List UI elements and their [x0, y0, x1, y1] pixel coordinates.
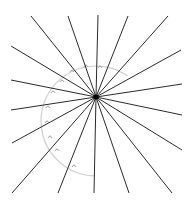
radiating-lines — [11, 15, 182, 193]
angle-marker — [48, 136, 52, 138]
ray-line — [96, 50, 181, 97]
ray-line — [96, 97, 172, 193]
center-point — [94, 95, 99, 100]
angle-marker — [51, 91, 55, 93]
ray-line — [96, 97, 129, 193]
diagram-svg — [0, 0, 191, 202]
ray-line — [96, 97, 182, 115]
angle-markers — [45, 65, 102, 167]
ray-line — [11, 46, 96, 97]
angle-marker — [60, 80, 64, 82]
ray-line — [96, 15, 98, 97]
angle-marker — [55, 149, 59, 151]
ray-line — [96, 16, 168, 97]
angle-marker — [72, 165, 76, 167]
ray-line — [68, 16, 96, 97]
ray-line — [58, 97, 96, 193]
ray-line — [94, 97, 96, 193]
ray-line — [96, 84, 182, 97]
ray-line — [12, 97, 96, 193]
starburst-diagram — [0, 0, 191, 202]
ray-line — [96, 97, 182, 150]
ray-line — [31, 16, 96, 97]
angle-marker — [46, 106, 50, 108]
ray-line — [96, 16, 128, 97]
ray-line — [11, 80, 96, 97]
